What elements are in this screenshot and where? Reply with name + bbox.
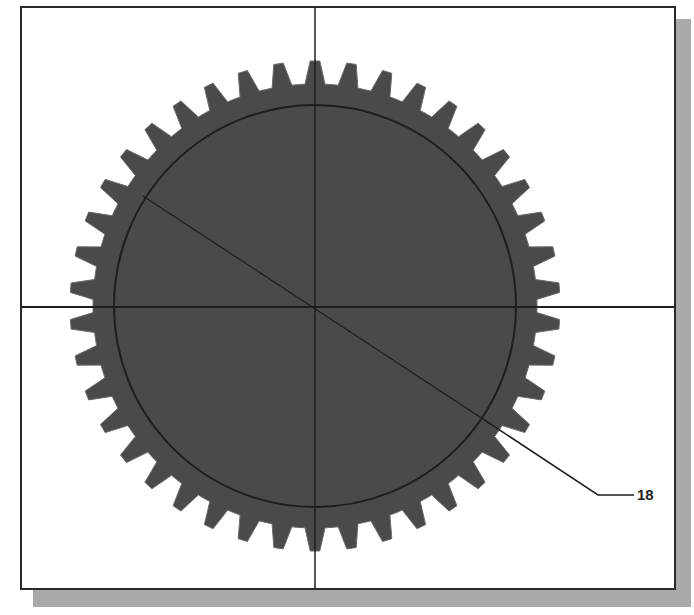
gear-drawing	[0, 0, 694, 615]
callout-label: 18	[637, 486, 654, 503]
